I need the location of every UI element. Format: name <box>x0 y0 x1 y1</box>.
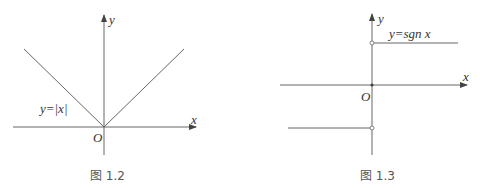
origin-label: O <box>361 89 371 104</box>
figures-canvas: y x O y=|x| 图 1.2 y x O y=sgn x 图 1.3 <box>0 0 480 188</box>
figure-abs: y x O y=|x| 图 1.2 <box>13 12 197 183</box>
y-axis-label: y <box>376 11 384 26</box>
function-label: y=sgn x <box>387 26 431 41</box>
figure-caption: 图 1.2 <box>90 169 125 183</box>
x-axis-label: x <box>190 112 197 127</box>
figure-sgn: y x O y=sgn x 图 1.3 <box>280 11 469 183</box>
y-axis-label: y <box>107 12 115 27</box>
open-circle-upper <box>370 41 374 45</box>
function-label: y=|x| <box>38 101 67 116</box>
open-circle-lower <box>370 126 374 130</box>
x-axis-label: x <box>462 69 469 84</box>
figure-caption: 图 1.3 <box>360 169 395 183</box>
origin-point <box>370 83 373 86</box>
origin-label: O <box>93 130 103 145</box>
